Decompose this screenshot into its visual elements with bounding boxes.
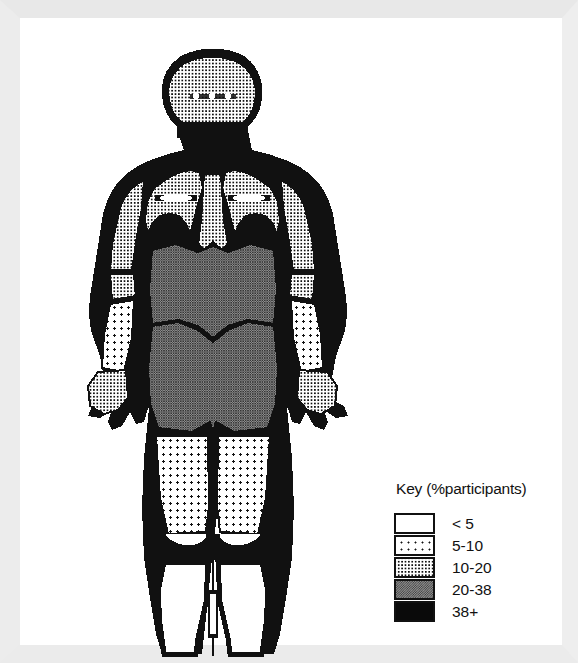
legend: Key (%participants) < 5 5-10 10-20 20-38… (390, 480, 578, 640)
legend-swatch-lt5 (394, 513, 435, 534)
region-calf-right (218, 562, 268, 654)
region-thigh-right (217, 436, 270, 534)
legend-row-5-10: 5-10 (394, 535, 578, 557)
legend-title: Key (%participants) (396, 480, 527, 498)
legend-swatch-38plus (394, 601, 435, 622)
legend-label-10-20: 10-20 (452, 557, 492, 578)
legend-row-lt5: < 5 (394, 513, 578, 535)
legend-row-20-38: 20-38 (394, 579, 578, 601)
legend-label-lt5: < 5 (452, 513, 474, 534)
region-elbow-right (289, 274, 315, 300)
page-root: Key (%participants) < 5 5-10 10-20 20-38… (0, 0, 578, 663)
legend-swatch-10-20 (394, 557, 435, 578)
legend-label-20-38: 20-38 (452, 579, 492, 600)
legend-swatch-20-38 (394, 579, 435, 600)
body-map-svg (48, 38, 378, 658)
legend-label-38plus: 38+ (452, 601, 478, 622)
legend-row-10-20: 10-20 (394, 557, 578, 579)
region-head-scalp (169, 57, 256, 122)
figure-canvas: Key (%participants) < 5 5-10 10-20 20-38… (20, 18, 562, 645)
region-thigh-left (156, 436, 209, 534)
legend-label-5-10: 5-10 (452, 535, 483, 556)
legend-row-38plus: 38+ (394, 601, 578, 623)
region-elbow-left (110, 274, 136, 300)
legend-swatch-5-10 (394, 535, 435, 556)
body-map-posterior (48, 38, 378, 658)
